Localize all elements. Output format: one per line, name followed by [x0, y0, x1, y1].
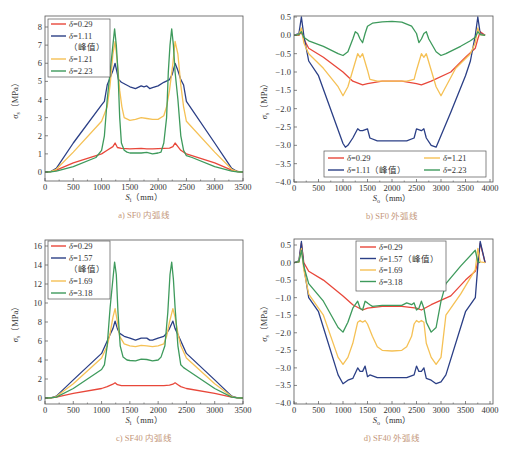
legend-label: δ=1.11 — [69, 31, 92, 41]
y-tick-label: −2.0 — [276, 104, 291, 114]
series-line-3 — [45, 309, 243, 398]
legend-label-note: （峰值） — [69, 42, 105, 52]
y-tick-label: 6 — [38, 58, 42, 68]
y-tick-label: 10 — [34, 298, 43, 308]
x-tick-label: 0 — [43, 405, 47, 415]
x-tick-label: 1000 — [335, 405, 352, 415]
x-axis-label: Si（mm） — [125, 415, 162, 426]
legend: δ=0.29δ=1.57（峰值）δ=1.69δ=3.18 — [48, 241, 110, 299]
y-tick-label: 14 — [34, 260, 43, 270]
chart-panel-a: 0500100015002000250030003500012345678Si（… — [10, 16, 252, 220]
y-tick-label: −3.0 — [276, 140, 291, 150]
y-tick-label: 5 — [38, 76, 42, 86]
legend-label: δ=1.21 — [69, 54, 93, 64]
y-tick-label: 0.5 — [280, 12, 291, 22]
x-tick-label: 3000 — [206, 405, 223, 415]
y-tick-label: −3.0 — [276, 363, 291, 373]
y-tick-label: −1.0 — [276, 293, 291, 303]
y-tick-label: −2.5 — [276, 345, 291, 355]
y-tick-label: 12 — [34, 279, 43, 289]
y-axis-label: σs（MPa） — [259, 79, 270, 120]
legend-label: δ=2.23 — [443, 165, 467, 175]
y-tick-label: 0.0 — [280, 258, 291, 268]
series-line-1 — [45, 383, 243, 398]
y-tick-label: −4.0 — [276, 398, 291, 408]
x-axis-label: So（mm） — [373, 193, 411, 204]
x-tick-label: 500 — [312, 405, 325, 415]
x-tick-label: 2000 — [150, 182, 167, 192]
y-tick-label: 0.5 — [280, 240, 291, 250]
y-tick-label: 4 — [38, 355, 43, 365]
x-tick-label: 3000 — [433, 183, 450, 193]
y-tick-label: 0.0 — [280, 30, 291, 40]
plot-area — [294, 17, 485, 147]
y-tick-label: 6 — [38, 336, 42, 346]
x-tick-label: 0 — [43, 182, 47, 192]
y-axis-label: σs（MPa） — [259, 301, 270, 342]
x-tick-label: 2000 — [384, 183, 401, 193]
legend-label: δ=1.11（峰值） — [347, 165, 406, 175]
chart-panel-d: 050010001500200025003000350040000.50.0−0… — [259, 239, 499, 443]
x-tick-label: 3500 — [235, 405, 252, 415]
x-tick-label: 3500 — [457, 183, 474, 193]
figure-caption: b) SF0 外弧线 — [366, 211, 418, 221]
x-tick-label: 3500 — [235, 182, 252, 192]
series-line-4 — [294, 21, 485, 55]
x-tick-label: 1000 — [335, 183, 352, 193]
x-tick-label: 500 — [312, 183, 325, 193]
x-tick-label: 3000 — [433, 405, 450, 415]
figure-caption: c) SF40 内弧线 — [116, 433, 172, 443]
chart-panel-b: 050010001500200025003000350040000.50.0−0… — [259, 12, 499, 221]
x-tick-label: 1500 — [359, 183, 376, 193]
legend-label: δ=2.23 — [69, 66, 93, 76]
y-tick-label: 8 — [38, 22, 42, 32]
y-tick-label: 4 — [38, 95, 43, 105]
legend: δ=0.29δ=1.57（峰值）δ=1.69δ=3.18 — [356, 241, 446, 291]
series-line-2 — [294, 17, 485, 147]
series-line-1 — [45, 143, 243, 172]
x-tick-label: 1000 — [93, 405, 110, 415]
x-tick-label: 1500 — [359, 405, 376, 415]
y-tick-label: 0 — [38, 167, 42, 177]
legend-label: δ=0.29 — [379, 242, 403, 252]
y-tick-label: 7 — [38, 40, 42, 50]
legend: δ=0.29δ=1.11（峰值）δ=1.21δ=2.23 — [48, 19, 110, 77]
y-axis-label: σs（MPa） — [10, 302, 21, 343]
x-tick-label: 2500 — [178, 405, 195, 415]
legend-label: δ=1.57 — [69, 253, 93, 263]
y-tick-label: 3 — [38, 113, 42, 123]
x-axis-label: So（mm） — [373, 415, 411, 426]
x-tick-label: 2000 — [384, 405, 401, 415]
legend-label: δ=0.29 — [69, 241, 93, 251]
x-tick-label: 0 — [292, 405, 296, 415]
y-tick-label: 1 — [38, 149, 42, 159]
legend-label: δ=1.21 — [443, 153, 467, 163]
y-tick-label: −1.5 — [276, 85, 291, 95]
legend-label: δ=3.18 — [379, 277, 403, 287]
x-tick-label: 2500 — [408, 405, 425, 415]
x-tick-label: 2000 — [150, 405, 167, 415]
x-tick-label: 1500 — [121, 405, 138, 415]
chart-panel-c: 0500100015002000250030003500024681012141… — [10, 240, 252, 443]
y-axis-label: σs（MPa） — [10, 78, 21, 119]
y-tick-label: 2 — [38, 374, 42, 384]
x-tick-label: 4000 — [482, 405, 499, 415]
y-tick-label: −2.5 — [276, 122, 291, 132]
figure-caption: a) SF0 内弧线 — [118, 210, 170, 220]
y-tick-label: −2.0 — [276, 328, 291, 338]
x-tick-label: 2500 — [178, 182, 195, 192]
y-tick-label: 8 — [38, 317, 42, 327]
x-tick-label: 1000 — [93, 182, 110, 192]
y-tick-label: −0.5 — [276, 49, 291, 59]
y-tick-label: −1.5 — [276, 310, 291, 320]
y-tick-label: −0.5 — [276, 275, 291, 285]
y-tick-label: 2 — [38, 131, 42, 141]
legend-label: δ=0.29 — [69, 19, 93, 29]
legend-label-note: （峰值） — [69, 264, 105, 274]
legend-label: δ=3.18 — [69, 288, 93, 298]
x-tick-label: 2500 — [408, 183, 425, 193]
legend-label: δ=1.57（峰值） — [379, 254, 439, 264]
x-tick-label: 0 — [292, 183, 296, 193]
legend-label: δ=0.29 — [347, 153, 371, 163]
x-tick-label: 3000 — [206, 182, 223, 192]
